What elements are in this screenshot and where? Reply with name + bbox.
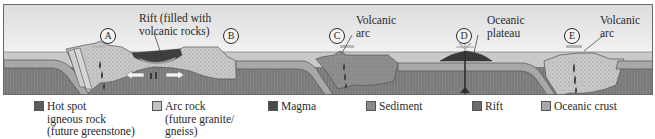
- volcanic-arc-e-line1: Volcanic: [600, 14, 640, 26]
- legend-swatch-rift: [472, 101, 482, 111]
- oceanic-plateau-line2: plateau: [487, 27, 520, 39]
- marker-c: C: [329, 28, 345, 44]
- legend-label-oceanic-crust: Oceanic crust: [554, 100, 617, 113]
- legend-label-sediment: Sediment: [379, 100, 422, 113]
- volcanic-arc-e-line2: arc: [600, 27, 614, 39]
- legend-label-magma: Magma: [281, 100, 316, 113]
- rift-label-line1: Rift (filled with: [139, 12, 211, 24]
- marker-b: B: [223, 28, 239, 44]
- legend-swatch-sediment: [366, 101, 376, 111]
- rift-label-line2: volcanic rocks): [139, 25, 210, 37]
- legend-label-hot-spot: Hot spot igneous rock (future greenstone…: [47, 100, 135, 138]
- legend-label-rift: Rift: [485, 100, 503, 113]
- tectonic-cross-section: A B C D E Rift (filled with volcanic roc…: [3, 4, 653, 95]
- legend-swatch-magma: [268, 101, 278, 111]
- marker-d: D: [456, 28, 472, 44]
- legend-label-arc-rock: Arc rock (future granite/ gneiss): [165, 100, 234, 138]
- marker-e: E: [564, 28, 580, 44]
- cross-section-art: [4, 5, 653, 95]
- legend-swatch-hot-spot: [34, 101, 44, 111]
- marker-a: A: [100, 28, 116, 44]
- legend-swatch-oceanic-crust: [541, 101, 551, 111]
- volcanic-arc-c-line1: Volcanic: [356, 14, 396, 26]
- oceanic-plateau-line1: Oceanic: [487, 14, 525, 26]
- legend-swatch-arc-rock: [152, 101, 162, 111]
- volcanic-arc-c-line2: arc: [356, 27, 370, 39]
